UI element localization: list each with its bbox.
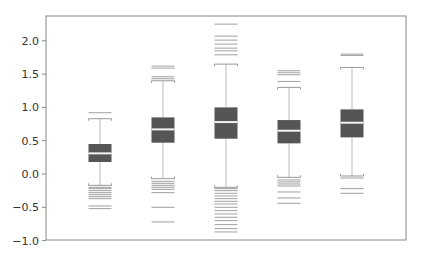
y-tick-label: 0.0 — [22, 168, 40, 181]
y-tick-label: −0.5 — [12, 201, 39, 214]
y-tick-label: 2.0 — [22, 35, 40, 48]
y-tick-label: 0.5 — [22, 135, 40, 148]
y-axis: −1.0−0.50.00.51.01.52.0 — [12, 35, 46, 248]
y-tick-label: 1.5 — [22, 68, 40, 81]
box-plot-chart: −1.0−0.50.00.51.01.52.0 — [0, 0, 424, 256]
y-tick-label: 1.0 — [22, 101, 40, 114]
y-tick-label: −1.0 — [12, 235, 39, 248]
